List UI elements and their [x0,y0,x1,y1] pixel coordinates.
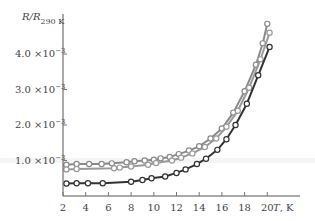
data-point [244,101,249,106]
y-tick-label: 4.0 ×10−3 [15,47,66,59]
data-point [215,147,220,152]
data-point [153,160,158,165]
data-point [214,136,219,141]
data-point [129,164,134,169]
data-point [117,165,122,170]
x-ticks: 2468101214161820 [60,192,274,213]
x-tick-label: 4 [83,202,89,213]
resistance-chart: 1.0 ×10−32.0 ×10−33.0 ×10−34.0 ×10−3 246… [0,0,315,221]
data-point [190,151,195,156]
data-point [178,155,183,160]
x-tick-label: 2 [60,202,66,213]
x-tick-label: 8 [128,202,134,213]
data-point [124,160,129,165]
y-tick-label: 1.0 ×10−3 [15,154,66,166]
data-point [64,167,69,172]
y-tick-label: 3.0 ×10−3 [15,83,66,95]
data-point [258,57,263,62]
data-point [140,177,145,182]
data-point [174,170,179,175]
data-point [64,181,69,186]
data-point [99,161,104,166]
x-tick-label: 12 [170,202,183,213]
series-line-sample-3 [66,47,269,184]
data-point [235,108,240,113]
data-point [194,161,199,166]
data-point [247,85,252,90]
x-tick-label: 16 [216,202,229,213]
data-point [203,156,208,161]
data-point [111,166,116,171]
data-point [267,44,272,49]
data-point [202,144,207,149]
data-point [233,122,238,127]
data-point [224,124,229,129]
data-point [100,181,105,186]
y-tick-label: 2.0 ×10−3 [15,118,66,130]
data-point [146,162,151,167]
data-point [132,159,137,164]
data-point [265,21,270,26]
data-point [158,156,163,161]
data-point [163,174,168,179]
data-point [224,137,229,142]
data-point [149,176,154,181]
data-point [256,73,261,78]
x-tick-label: 18 [238,202,251,213]
x-tick-label: 14 [193,202,206,213]
data-point [85,181,90,186]
x-tick-label: 20 [261,202,274,213]
data-point [129,179,134,184]
y-axis-label: R/R290 K [21,11,65,26]
x-axis-label: T, K [273,202,294,213]
data-point [183,167,188,172]
x-tick-label: 6 [105,202,111,213]
x-tick-label: 10 [147,202,160,213]
data-point [169,158,174,163]
data-point [267,30,272,35]
data-point [74,166,79,171]
data-point [87,161,92,166]
data-point [74,181,79,186]
y-ticks: 1.0 ×10−32.0 ×10−33.0 ×10−34.0 ×10−3 [15,47,67,166]
series-line-sample-1 [66,24,267,165]
